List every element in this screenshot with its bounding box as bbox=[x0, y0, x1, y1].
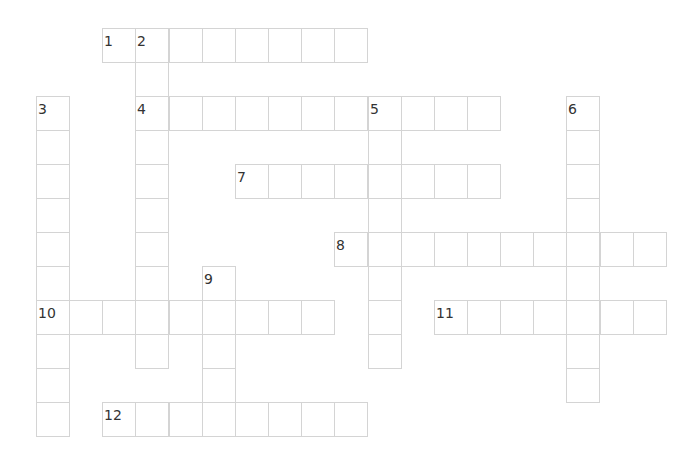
crossword-cell[interactable] bbox=[566, 368, 600, 403]
clue-number: 3 bbox=[38, 102, 47, 116]
crossword-cell[interactable] bbox=[633, 232, 667, 267]
crossword-cell[interactable] bbox=[566, 198, 600, 233]
crossword-cell[interactable] bbox=[135, 334, 169, 369]
crossword-cell[interactable] bbox=[566, 334, 600, 369]
crossword-cell[interactable] bbox=[235, 28, 269, 63]
crossword-cell[interactable] bbox=[169, 28, 203, 63]
crossword-cell[interactable] bbox=[533, 232, 567, 267]
crossword-cell[interactable] bbox=[401, 96, 435, 131]
crossword-cell[interactable] bbox=[36, 402, 70, 437]
crossword-cell[interactable] bbox=[368, 266, 402, 301]
crossword-cell[interactable] bbox=[135, 402, 169, 437]
crossword-cell[interactable]: 10 bbox=[36, 300, 70, 335]
clue-number: 12 bbox=[104, 408, 122, 422]
clue-number: 2 bbox=[137, 34, 146, 48]
crossword-cell[interactable]: 8 bbox=[334, 232, 368, 267]
crossword-cell[interactable] bbox=[467, 164, 501, 199]
crossword-cell[interactable] bbox=[36, 198, 70, 233]
crossword-cell[interactable] bbox=[500, 300, 534, 335]
crossword-cell[interactable] bbox=[533, 300, 567, 335]
crossword-cell[interactable] bbox=[334, 96, 368, 131]
clue-number: 11 bbox=[436, 306, 454, 320]
clue-number: 8 bbox=[336, 238, 345, 252]
crossword-cell[interactable] bbox=[434, 96, 468, 131]
crossword-cell[interactable] bbox=[36, 164, 70, 199]
crossword-cell[interactable]: 4 bbox=[135, 96, 169, 131]
crossword-cell[interactable] bbox=[36, 266, 70, 301]
crossword-cell[interactable] bbox=[268, 96, 302, 131]
crossword-cell[interactable] bbox=[368, 164, 402, 199]
clue-number: 1 bbox=[104, 34, 113, 48]
crossword-cell[interactable] bbox=[202, 334, 236, 369]
crossword-cell[interactable] bbox=[368, 198, 402, 233]
crossword-cell[interactable] bbox=[102, 300, 136, 335]
crossword-cell[interactable] bbox=[566, 164, 600, 199]
crossword-cell[interactable] bbox=[235, 300, 269, 335]
crossword-cell[interactable] bbox=[633, 300, 667, 335]
crossword-cell[interactable] bbox=[301, 164, 335, 199]
crossword-cell[interactable]: 12 bbox=[102, 402, 136, 437]
crossword-cell[interactable] bbox=[36, 368, 70, 403]
crossword-cell[interactable]: 5 bbox=[368, 96, 402, 131]
crossword-cell[interactable] bbox=[566, 266, 600, 301]
crossword-cell[interactable] bbox=[169, 300, 203, 335]
crossword-cell[interactable] bbox=[467, 300, 501, 335]
crossword-cell[interactable] bbox=[202, 402, 236, 437]
crossword-cell[interactable] bbox=[368, 334, 402, 369]
crossword-cell[interactable] bbox=[169, 402, 203, 437]
crossword-cell[interactable] bbox=[500, 232, 534, 267]
crossword-cell[interactable] bbox=[368, 130, 402, 165]
crossword-cell[interactable] bbox=[334, 164, 368, 199]
crossword-cell[interactable] bbox=[135, 164, 169, 199]
crossword-cell[interactable] bbox=[600, 232, 634, 267]
crossword-cell[interactable] bbox=[235, 402, 269, 437]
crossword-cell[interactable] bbox=[202, 300, 236, 335]
crossword-cell[interactable] bbox=[600, 300, 634, 335]
crossword-cell[interactable] bbox=[36, 232, 70, 267]
clue-number: 5 bbox=[370, 102, 379, 116]
crossword-cell[interactable] bbox=[467, 232, 501, 267]
crossword-cell[interactable] bbox=[368, 232, 402, 267]
crossword-cell[interactable] bbox=[268, 28, 302, 63]
crossword-cell[interactable] bbox=[135, 266, 169, 301]
crossword-cell[interactable] bbox=[202, 96, 236, 131]
crossword-cell[interactable] bbox=[268, 402, 302, 437]
crossword-cell[interactable] bbox=[235, 96, 269, 131]
crossword-cell[interactable] bbox=[368, 300, 402, 335]
crossword-cell[interactable] bbox=[434, 232, 468, 267]
crossword-cell[interactable] bbox=[202, 368, 236, 403]
crossword-cell[interactable] bbox=[268, 164, 302, 199]
crossword-cell[interactable] bbox=[135, 232, 169, 267]
crossword-cell[interactable] bbox=[401, 164, 435, 199]
crossword-cell[interactable] bbox=[566, 300, 600, 335]
crossword-cell[interactable] bbox=[401, 232, 435, 267]
crossword-cell[interactable]: 6 bbox=[566, 96, 600, 131]
clue-number: 4 bbox=[137, 102, 146, 116]
crossword-cell[interactable] bbox=[202, 28, 236, 63]
crossword-cell[interactable] bbox=[69, 300, 103, 335]
crossword-cell[interactable] bbox=[434, 164, 468, 199]
crossword-cell[interactable]: 2 bbox=[135, 28, 169, 63]
crossword-cell[interactable] bbox=[135, 198, 169, 233]
crossword-cell[interactable] bbox=[301, 402, 335, 437]
crossword-cell[interactable]: 11 bbox=[434, 300, 468, 335]
crossword-cell[interactable]: 3 bbox=[36, 96, 70, 131]
crossword-cell[interactable] bbox=[334, 28, 368, 63]
crossword-cell[interactable] bbox=[334, 402, 368, 437]
crossword-cell[interactable] bbox=[301, 96, 335, 131]
crossword-cell[interactable] bbox=[135, 130, 169, 165]
crossword-cell[interactable] bbox=[301, 300, 335, 335]
crossword-cell[interactable] bbox=[135, 300, 169, 335]
crossword-cell[interactable]: 9 bbox=[202, 266, 236, 301]
crossword-cell[interactable]: 1 bbox=[102, 28, 136, 63]
crossword-cell[interactable] bbox=[135, 62, 169, 97]
crossword-cell[interactable] bbox=[169, 96, 203, 131]
crossword-cell[interactable] bbox=[566, 232, 600, 267]
crossword-cell[interactable] bbox=[268, 300, 302, 335]
crossword-cell[interactable] bbox=[36, 334, 70, 369]
crossword-cell[interactable] bbox=[467, 96, 501, 131]
crossword-cell[interactable] bbox=[36, 130, 70, 165]
crossword-cell[interactable] bbox=[566, 130, 600, 165]
crossword-cell[interactable] bbox=[301, 28, 335, 63]
crossword-cell[interactable]: 7 bbox=[235, 164, 269, 199]
